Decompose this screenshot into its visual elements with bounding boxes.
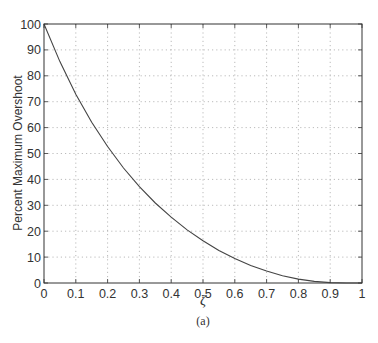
y-tick-label: 60 xyxy=(27,121,41,135)
y-tick-label: 30 xyxy=(27,199,41,213)
y-tick-label: 40 xyxy=(27,173,41,187)
x-tick-label: 1 xyxy=(359,287,366,301)
y-tick-label: 90 xyxy=(27,43,41,57)
y-tick-label: 0 xyxy=(34,277,41,291)
x-tick-label: 0.4 xyxy=(163,287,180,301)
y-tick-label: 20 xyxy=(27,225,41,239)
y-axis-label: Percent Maximum Overshoot xyxy=(11,75,25,231)
x-axis-label: ζ xyxy=(200,292,207,308)
x-tick-label: 0.7 xyxy=(258,287,275,301)
x-tick-label: 0.3 xyxy=(131,287,148,301)
x-tick-label: 0.8 xyxy=(290,287,307,301)
y-tick-label: 100 xyxy=(20,18,41,32)
figure-caption: (a) xyxy=(196,314,209,328)
y-axis-ticks: 0102030405060708090100 xyxy=(20,18,362,291)
x-tick-label: 0.6 xyxy=(226,287,243,301)
x-tick-label: 0.2 xyxy=(99,287,116,301)
y-tick-label: 80 xyxy=(27,69,41,83)
x-tick-label: 0 xyxy=(41,287,48,301)
x-tick-label: 0.9 xyxy=(322,287,339,301)
y-tick-label: 70 xyxy=(27,95,41,109)
grid-lines xyxy=(44,24,362,283)
x-tick-label: 0.1 xyxy=(67,287,84,301)
y-tick-label: 10 xyxy=(27,251,41,265)
overshoot-chart: 00.10.20.30.40.50.60.70.80.91 0102030405… xyxy=(0,0,378,343)
y-tick-label: 50 xyxy=(27,147,41,161)
